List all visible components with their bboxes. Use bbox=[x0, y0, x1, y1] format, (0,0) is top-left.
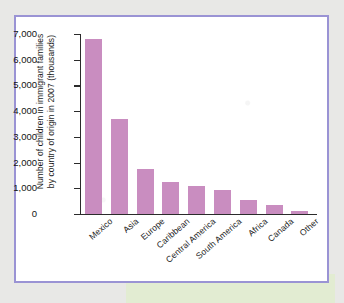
bar bbox=[162, 182, 179, 214]
x-axis-label: Asia bbox=[121, 216, 140, 235]
y-tick-label: 2,000 bbox=[0, 157, 37, 168]
y-axis-title: Number of children in immigrant families… bbox=[35, 17, 56, 207]
bar bbox=[214, 190, 231, 214]
bar bbox=[240, 200, 257, 214]
y-tick-mark bbox=[74, 214, 80, 215]
bar-series bbox=[80, 34, 317, 214]
bar bbox=[266, 205, 283, 214]
x-axis-label: Other bbox=[298, 216, 321, 238]
bar bbox=[85, 39, 102, 214]
y-tick-label: 3,000 bbox=[0, 131, 37, 142]
y-tick-label: 4,000 bbox=[0, 105, 37, 116]
y-tick-label: 6,000 bbox=[0, 54, 37, 65]
chart-plot-area: Number of children in immigrant families… bbox=[16, 17, 327, 281]
figure-frame: Number of children in immigrant families… bbox=[14, 15, 329, 283]
bar bbox=[188, 186, 205, 214]
y-tick-label: 7,000 bbox=[0, 28, 37, 39]
bar bbox=[137, 169, 154, 214]
x-axis-labels: MexicoAsiaEuropeCaribbeanCentral America… bbox=[80, 216, 330, 280]
y-tick-label: 1,000 bbox=[0, 182, 37, 193]
bar bbox=[111, 119, 128, 214]
y-axis-title-line2: by country of origin in 2007 (thousands) bbox=[45, 17, 56, 207]
y-tick-label: 5,000 bbox=[0, 79, 37, 90]
x-axis-label: Canada bbox=[265, 216, 295, 244]
x-axis-label: Mexico bbox=[87, 216, 115, 242]
page-background: Number of children in immigrant families… bbox=[0, 0, 344, 303]
bar bbox=[291, 211, 308, 214]
y-tick-label: 0 bbox=[0, 208, 37, 219]
